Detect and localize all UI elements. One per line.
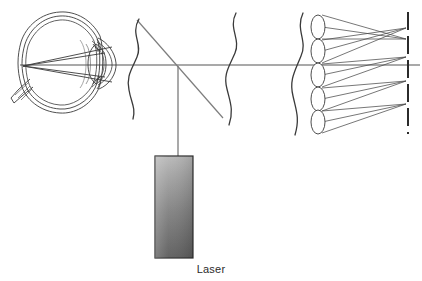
lenslet-5-icon [311,110,325,134]
wavefront-1-icon [128,19,139,119]
wavefront-sensor-diagram: Laser [0,0,422,281]
sclera-outer-icon [18,12,103,113]
eye-diagram [11,12,116,113]
eye-ray-mid-lower [23,66,105,77]
beam-paths [20,65,420,157]
cone-2-ray-center [322,28,406,51]
wavefront-2-icon [226,13,237,125]
cone-2-ray-top [322,28,406,40]
laser-source [155,156,193,258]
lenslet-2-icon [311,39,325,63]
lenslet-array [311,15,325,134]
ray-cone-1 [322,15,406,39]
cone-1-ray-top [322,15,406,39]
cone-5-ray-top [322,104,406,111]
lenslet-1-icon [311,15,325,39]
eye-ray-upper [23,47,112,66]
wavefront-3-icon [292,13,303,135]
wavefronts [128,13,303,135]
figure-canvas [0,0,422,281]
cone-4-ray-top [322,81,406,88]
lenslet-3-icon [311,63,325,87]
ray-cones [322,15,406,133]
ray-cone-5 [322,104,406,133]
laser-body-sheen [155,156,193,258]
beamsplitter [137,20,223,118]
lenslet-4-icon [311,87,325,111]
ray-cone-3 [322,57,406,87]
cone-5-ray-bottom [322,104,406,133]
